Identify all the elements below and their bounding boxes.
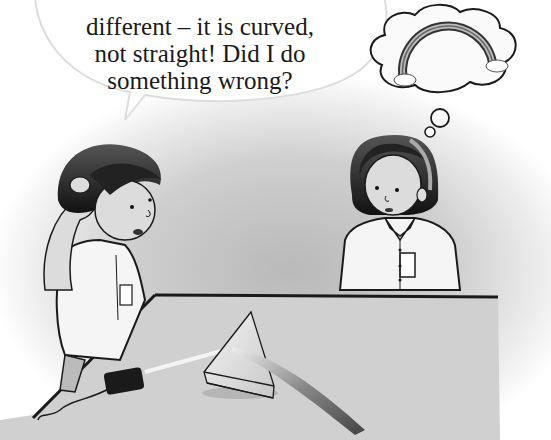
speech-line-2: not straight! Did I do (60, 40, 340, 67)
illustration-scene: _ different – it is curved, not straight… (0, 0, 551, 440)
thought-bubble (371, 5, 516, 137)
speech-line-3: something wrong? (60, 67, 340, 94)
speech-line-1: different – it is curved, (60, 13, 340, 40)
speech-bubble-text: _ different – it is curved, not straight… (60, 0, 340, 94)
girl-figure (340, 135, 460, 290)
